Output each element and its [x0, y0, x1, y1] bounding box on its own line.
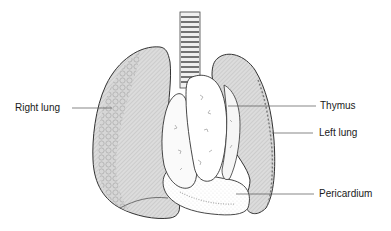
label-left-lung: Left lung	[319, 127, 357, 139]
label-pericardium: Pericardium	[319, 188, 372, 200]
label-right-lung: Right lung	[15, 102, 60, 114]
label-thymus: Thymus	[320, 100, 356, 112]
thymus	[162, 75, 240, 188]
